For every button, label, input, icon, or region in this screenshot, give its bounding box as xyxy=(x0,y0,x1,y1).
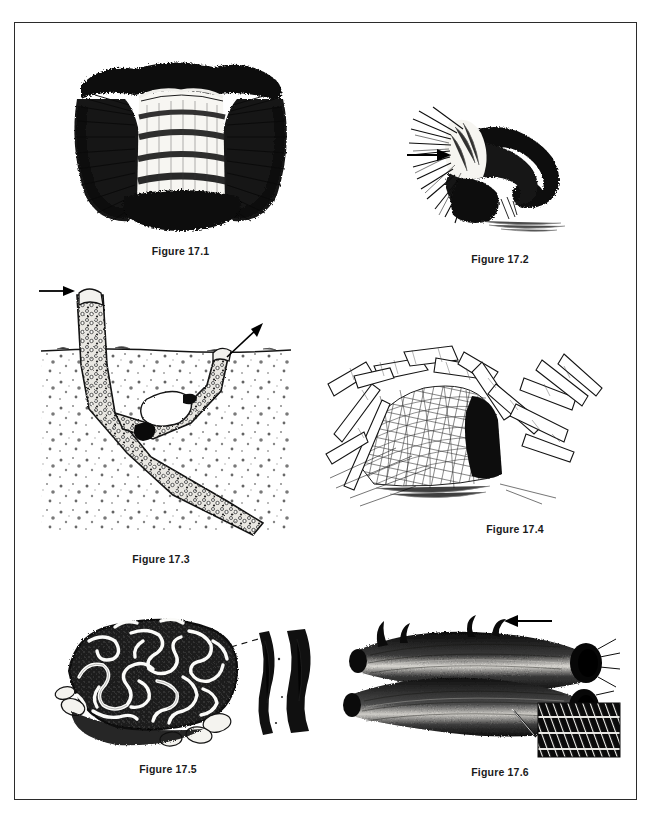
figure-17-6-inset xyxy=(538,703,620,757)
figure-17-6-arrow xyxy=(504,615,552,627)
figure-17-5-caption: Figure 17.5 xyxy=(83,763,253,775)
figure-17-5-inset-connector xyxy=(231,637,265,647)
figure-17-4-caption: Figure 17.4 xyxy=(430,523,600,535)
figure-17-2-caption: Figure 17.2 xyxy=(405,253,595,265)
figure-17-1: Figure 17.1 xyxy=(63,55,298,235)
scanned-page: Figure 17.1 xyxy=(0,0,651,818)
figure-17-3: Figure 17.3 xyxy=(31,273,301,543)
figure-17-5-illustration xyxy=(53,611,318,756)
figure-17-5-inset xyxy=(258,629,310,735)
figure-17-2-illustration xyxy=(405,93,595,243)
figure-17-2: Figure 17.2 xyxy=(405,93,595,243)
figure-17-1-caption: Figure 17.1 xyxy=(63,245,298,257)
figure-17-3-illustration xyxy=(31,273,301,543)
figure-17-1-illustration xyxy=(63,55,298,235)
figure-plate-frame: Figure 17.1 xyxy=(14,22,637,800)
figure-17-6-illustration xyxy=(340,611,620,761)
figure-17-3-arrow-left xyxy=(39,286,75,296)
figure-17-6-caption: Figure 17.6 xyxy=(415,766,585,778)
figure-17-4-illustration xyxy=(320,338,610,518)
figure-17-5: Figure 17.5 xyxy=(53,611,318,756)
figure-17-6: Figure 17.6 xyxy=(340,611,620,761)
figure-17-3-caption: Figure 17.3 xyxy=(76,553,246,565)
figure-17-4: Figure 17.4 xyxy=(320,338,610,518)
